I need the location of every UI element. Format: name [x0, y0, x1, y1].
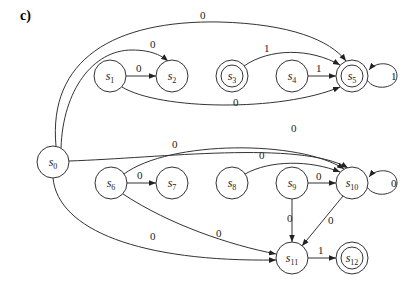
edge-label: 0: [328, 214, 334, 226]
edge-label: 0: [287, 212, 293, 224]
state-s12-accepting: s12: [336, 242, 368, 274]
edge-label: 1: [264, 42, 270, 54]
state-s6: s6: [95, 167, 127, 199]
edge-s0-s2: 0: [61, 38, 168, 148]
edge-label: 0: [150, 38, 156, 50]
state-s3-accepting: s3: [216, 60, 248, 92]
edge-label: 0: [136, 62, 142, 74]
edge-label: 1: [318, 244, 324, 256]
edge-s4-s5: 1: [308, 62, 336, 76]
state-s5-accepting: s5: [336, 60, 368, 92]
edge-line: [302, 196, 343, 246]
edge-s0-s10: 0: [69, 122, 348, 168]
edge-label: 1: [391, 70, 397, 82]
edge-s6-s11: 0: [123, 194, 276, 254]
edge-label: 0: [233, 96, 239, 108]
edge-s9-s10: 0: [308, 170, 336, 183]
state-s10: s10: [336, 167, 368, 199]
state-s7: s7: [156, 167, 188, 199]
edge-s9-s11: 0: [287, 199, 293, 242]
state-s9: s9: [276, 167, 308, 199]
state-s0: s0: [37, 146, 69, 178]
state-s11: s11: [276, 242, 308, 274]
state-s8: s8: [216, 167, 248, 199]
state-s4: s4: [276, 60, 308, 92]
edge-label: 0: [150, 230, 156, 242]
edge-s1-s2: 0: [126, 62, 156, 76]
edge-label: 0: [259, 149, 265, 161]
edge-label: 0: [216, 227, 222, 239]
edge-label: 0: [137, 169, 143, 181]
edge-s11-s12: 1: [308, 244, 336, 258]
edge-line: [123, 194, 276, 254]
edge-s6-s7: 0: [127, 169, 156, 183]
edge-label: 0: [200, 9, 206, 21]
edge-label: 0: [316, 170, 322, 182]
state-s1: s1: [94, 60, 126, 92]
edge-s5-s5: 1: [367, 64, 397, 87]
state-diagram: 000011100000000001 s0s1s2s3s4s5s6s7s8s9s…: [0, 0, 418, 290]
edge-label: 0: [291, 122, 297, 134]
state-s2: s2: [156, 60, 188, 92]
edge-label: 0: [172, 138, 178, 150]
edge-label: 1: [316, 62, 322, 74]
edge-s10-s10: 0: [367, 171, 397, 194]
edge-s10-s11: 0: [302, 196, 343, 246]
edge-label: 0: [391, 177, 397, 189]
